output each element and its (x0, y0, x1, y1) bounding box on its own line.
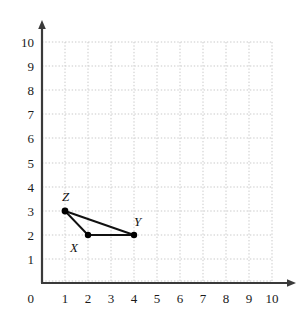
y-tick-label-10: 10 (8, 36, 34, 49)
x-tick-label-10: 10 (259, 292, 285, 305)
point-label-y: Y (134, 215, 141, 228)
point-label-z: Z (62, 190, 69, 203)
y-tick-label-6: 6 (8, 132, 34, 145)
point-marker-z (62, 208, 69, 215)
coordinate-plane (0, 0, 308, 315)
y-tick-label-7: 7 (8, 108, 34, 121)
y-tick-label-3: 3 (8, 205, 34, 218)
y-tick-label-4: 4 (8, 181, 34, 194)
point-marker-x (85, 232, 91, 238)
y-tick-label-0: 0 (8, 292, 34, 305)
y-tick-label-8: 8 (8, 84, 34, 97)
point-marker-y (131, 232, 137, 238)
plot-background (0, 0, 308, 315)
y-tick-label-2: 2 (8, 229, 34, 242)
y-tick-label-1: 1 (8, 253, 34, 266)
y-tick-label-9: 9 (8, 60, 34, 73)
point-label-x: X (70, 241, 78, 254)
y-tick-label-5: 5 (8, 157, 34, 170)
